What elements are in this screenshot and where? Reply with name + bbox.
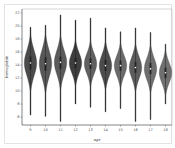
y-tick-label: 22 xyxy=(15,11,20,15)
x-tick-label: 14 xyxy=(103,128,108,132)
y-tick-label: 10 xyxy=(15,89,20,93)
median-dot xyxy=(90,63,92,65)
y-tick-label: 16 xyxy=(15,50,20,54)
median-dot xyxy=(30,62,32,64)
median-dot xyxy=(60,62,62,64)
x-tick-label: 13 xyxy=(88,128,93,132)
x-tick-label: 17 xyxy=(148,128,153,132)
median-dot xyxy=(150,68,152,70)
y-axis-title: hemoglobin xyxy=(4,55,9,78)
y-tick-label: 14 xyxy=(15,63,20,67)
median-dot xyxy=(105,65,107,67)
x-tick-label: 12 xyxy=(73,128,78,132)
median-dot xyxy=(165,72,167,74)
y-tick-label: 18 xyxy=(15,37,20,41)
x-tick-label: 15 xyxy=(118,128,123,132)
median-dot xyxy=(135,67,137,69)
y-tick-label: 6 xyxy=(17,115,20,119)
x-axis-title: age xyxy=(93,137,101,142)
x-tick-label: 9 xyxy=(29,128,32,132)
x-tick-label: 16 xyxy=(133,128,138,132)
median-dot xyxy=(45,63,47,65)
y-tick-label: 8 xyxy=(17,102,20,106)
x-tick-label: 10 xyxy=(43,128,48,132)
x-tick-label: 18 xyxy=(163,128,168,132)
y-tick-label: 12 xyxy=(15,76,20,80)
violin-chart: 6810121416182022hemoglobinage91011121314… xyxy=(0,0,175,148)
median-dot xyxy=(75,62,77,64)
median-dot xyxy=(120,65,122,67)
x-tick-label: 11 xyxy=(58,128,63,132)
y-tick-label: 20 xyxy=(15,24,20,28)
